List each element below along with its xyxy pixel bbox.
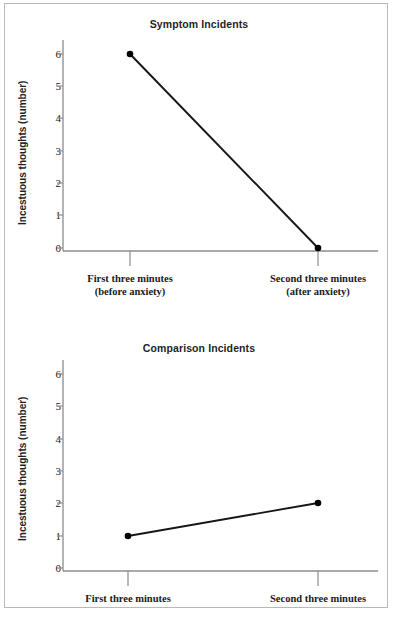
x-category-label-second-bottom: Second three minutes [270,592,366,605]
chart-panel-comparison-incidents: Comparison Incidents Incestuous thoughts… [5,306,389,608]
x-category-label-first-top: First three minutes (before anxiety) [87,272,173,298]
x-category-label-second-top-sub: (after anxiety) [270,285,366,298]
plot-area-top [5,4,389,306]
x-category-label-first-bottom-main: First three minutes [85,593,171,604]
data-line-bottom [128,503,318,536]
x-category-label-first-top-main: First three minutes [87,273,173,284]
chart-panel-symptom-incidents: Symptom Incidents Incestuous thoughts (n… [5,4,389,306]
x-category-label-second-top: Second three minutes (after anxiety) [270,272,366,298]
data-point-top-second [315,245,322,252]
data-point-bottom-first [125,533,132,540]
data-line-top [130,54,318,248]
data-point-bottom-second [315,500,322,507]
x-category-label-first-bottom: First three minutes [85,592,171,605]
figure-frame: Symptom Incidents Incestuous thoughts (n… [4,3,388,608]
x-category-label-second-bottom-main: Second three minutes [270,593,366,604]
x-category-label-second-top-main: Second three minutes [270,273,366,284]
x-category-label-first-top-sub: (before anxiety) [87,285,173,298]
plot-area-bottom [5,306,389,608]
data-point-top-first [127,51,134,58]
